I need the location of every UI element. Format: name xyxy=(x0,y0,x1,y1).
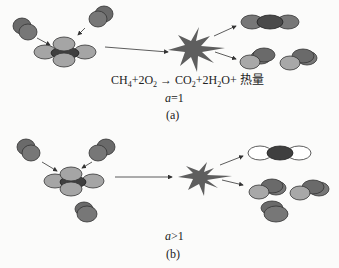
h2o-molecule-icon xyxy=(280,49,317,70)
combustion-diagram: CH4+2O2 → CO2+2H2O+ 热量 a=1 (a) a>1 (b) xyxy=(0,0,339,268)
reaction-equation: CH4+2O2 → CO2+2H2O+ 热量 xyxy=(111,70,264,89)
panel-a-reactants xyxy=(13,6,113,67)
panel-b-reactants xyxy=(17,139,115,222)
co2-molecule-icon xyxy=(248,146,311,160)
h2o-molecule-icon xyxy=(290,180,329,200)
h2o-molecule-icon xyxy=(249,179,286,199)
excess-o2-molecule-icon xyxy=(261,201,288,222)
excess-o2-molecule-icon xyxy=(75,202,97,222)
explosion-icon xyxy=(168,27,225,72)
explosion-icon xyxy=(178,162,232,196)
ratio-label-b: a>1 xyxy=(165,229,184,244)
o2-molecule-icon xyxy=(13,18,37,40)
panel-label-a: (a) xyxy=(166,108,179,123)
diagram-art xyxy=(0,0,339,268)
o2-molecule-icon xyxy=(89,139,115,161)
co2-molecule-icon xyxy=(241,15,299,29)
o2-molecule-icon xyxy=(17,139,40,161)
ratio-label-a: a=1 xyxy=(165,91,184,106)
h2o-molecule-icon xyxy=(240,48,275,69)
panel-label-b: (b) xyxy=(166,247,180,262)
o2-molecule-icon xyxy=(89,6,113,27)
ch4-molecule-icon xyxy=(44,167,104,196)
